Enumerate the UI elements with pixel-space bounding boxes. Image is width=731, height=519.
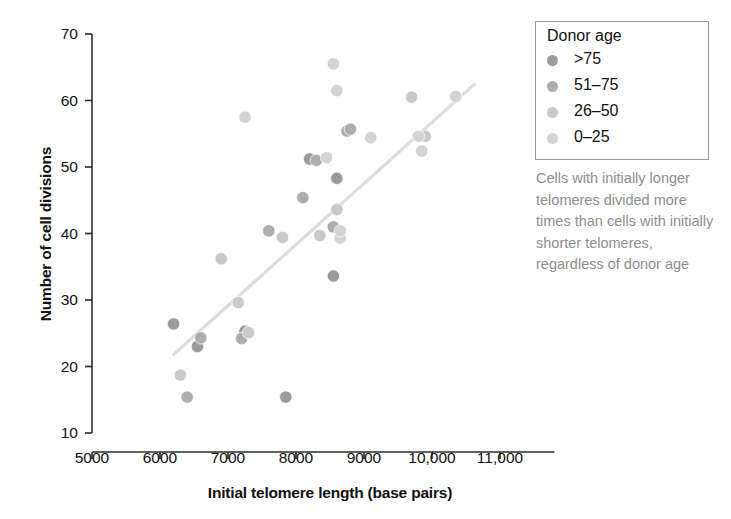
data-point	[365, 132, 377, 144]
y-tick-label: 30	[32, 291, 78, 309]
y-tick-label: 10	[32, 424, 78, 442]
y-tick-label: 70	[32, 25, 78, 43]
data-point	[416, 145, 428, 157]
data-points	[167, 58, 462, 404]
data-point	[232, 296, 244, 308]
legend-item[interactable]: 51–75	[547, 76, 702, 98]
scatter-chart-figure: Initial telomere length (base pairs) Num…	[0, 0, 731, 519]
axis-lines	[92, 34, 554, 452]
legend: Donor age >7551–7526–500–25	[535, 21, 709, 160]
y-tick-label: 50	[32, 158, 78, 176]
data-point	[320, 151, 332, 163]
data-point	[327, 58, 339, 70]
legend-swatch-icon	[547, 55, 558, 66]
data-point	[327, 270, 339, 282]
data-point	[167, 318, 179, 330]
legend-item-label: >75	[574, 50, 601, 68]
x-axis-title: Initial telomere length (base pairs)	[140, 484, 520, 502]
data-point	[297, 191, 309, 203]
annotation-text: Cells with initially longer telomeres di…	[536, 168, 724, 276]
y-tick-label: 20	[32, 358, 78, 376]
data-point	[331, 172, 343, 184]
legend-swatch-icon	[547, 133, 558, 144]
legend-item[interactable]: 0–25	[547, 128, 702, 150]
data-point	[276, 231, 288, 243]
legend-item[interactable]: 26–50	[547, 102, 702, 124]
data-point	[405, 91, 417, 103]
x-tick-label: 11,000	[460, 449, 540, 467]
data-point	[331, 203, 343, 215]
data-point	[195, 332, 207, 344]
data-point	[174, 369, 186, 381]
data-point	[334, 225, 346, 237]
legend-item-label: 51–75	[574, 76, 619, 94]
data-point	[314, 229, 326, 241]
legend-item[interactable]: >75	[547, 50, 702, 72]
legend-item-label: 26–50	[574, 102, 619, 120]
data-point	[215, 253, 227, 265]
legend-swatch-icon	[547, 107, 558, 118]
data-point	[181, 391, 193, 403]
legend-swatch-icon	[547, 81, 558, 92]
data-point	[280, 391, 292, 403]
data-point	[344, 123, 356, 135]
data-point	[450, 90, 462, 102]
data-point	[263, 225, 275, 237]
data-point	[412, 130, 424, 142]
data-point	[242, 326, 254, 338]
legend-title: Donor age	[547, 27, 622, 45]
y-tick-label: 40	[32, 225, 78, 243]
y-tick-label: 60	[32, 92, 78, 110]
legend-item-label: 0–25	[574, 128, 610, 146]
data-point	[331, 84, 343, 96]
data-point	[239, 111, 251, 123]
trendline	[174, 85, 475, 355]
